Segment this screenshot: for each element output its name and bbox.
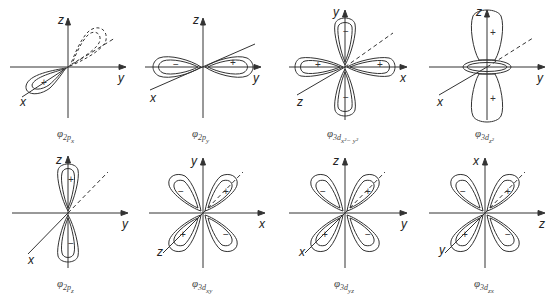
lobe-sign: +: [377, 60, 383, 70]
orbital-caption: φ3dzx: [474, 278, 494, 295]
lobe-sign: +: [41, 78, 47, 88]
axis-label-z: z: [297, 96, 303, 108]
lobe-sign: +: [490, 94, 496, 104]
orbital-3dzx-drawing: [415, 150, 554, 299]
axis-label-z: z: [539, 218, 545, 230]
axis-label-y: y: [122, 218, 128, 230]
orbital-3dzx: x z y − + + − φ3dzx: [415, 150, 554, 299]
axis-label-z: z: [333, 155, 339, 167]
lobe-sign: +: [315, 60, 321, 70]
axis-label-z: z: [58, 14, 64, 26]
orbital-3dz2: z y x + + φ3dz²: [415, 0, 554, 149]
lobe-sign: −: [365, 230, 371, 240]
axis-label-x: x: [20, 96, 26, 108]
lobe-sign: +: [322, 230, 328, 240]
lobe-sign: −: [173, 60, 179, 70]
axis-label-y: y: [191, 155, 197, 167]
axis-label-x: x: [259, 218, 265, 230]
axis-label-x: x: [400, 72, 406, 84]
orbital-3dxy-drawing: [135, 150, 274, 299]
orbital-caption: φ3dyz: [334, 278, 354, 295]
lobe-sign: +: [230, 58, 236, 68]
orbital-caption: φ3dx²− y²: [327, 128, 358, 145]
axis-label-y: y: [118, 72, 124, 84]
lobe-sign: +: [490, 28, 496, 38]
lobe-sign: −: [343, 93, 349, 103]
orbital-3dxy: y x z − + + − φ3dxy: [135, 150, 274, 299]
orbital-2pz-drawing: [0, 150, 139, 299]
axis-label-x: x: [150, 92, 156, 104]
lobe-sign: −: [460, 187, 466, 197]
axis-label-y: y: [253, 72, 259, 84]
lobe-sign: −: [505, 230, 511, 240]
axis-label-x: x: [437, 96, 443, 108]
orbital-caption: φ3dxy: [192, 278, 212, 295]
axis-label-z: z: [476, 6, 482, 18]
orbital-3dx2-y2: y x z − − + + φ3dx²− y²: [275, 0, 414, 149]
orbital-3dz2-drawing: [415, 0, 554, 149]
axis-label-y: y: [401, 218, 407, 230]
lobe-sign: +: [180, 230, 186, 240]
lobe-sign: −: [178, 187, 184, 197]
orbital-caption: φ2py: [192, 128, 209, 145]
lobe-sign: +: [68, 175, 74, 185]
axis-label-y: y: [333, 6, 339, 18]
lobe-sign: +: [365, 187, 371, 197]
axis-label-x: x: [299, 246, 305, 258]
lobe-sign: −: [68, 239, 74, 249]
lobe-sign: +: [223, 187, 229, 197]
axis-label-y: y: [439, 244, 445, 256]
orbital-caption: φ2px: [57, 128, 74, 145]
lobe-sign: −: [320, 187, 326, 197]
orbital-2pz: z y x + − φ2pz: [0, 150, 139, 299]
orbital-caption: φ3dz²: [475, 128, 494, 145]
orbital-3dyz-drawing: [275, 150, 414, 299]
lobe-sign: −: [223, 230, 229, 240]
axis-label-z: z: [56, 154, 62, 166]
orbital-2py: z y x − + φ2py: [135, 0, 274, 149]
lobe-sign: +: [505, 187, 511, 197]
lobe-sign: −: [343, 27, 349, 37]
axis-label-z: z: [157, 246, 163, 258]
axis-label-y: y: [537, 72, 543, 84]
lobe-sign: +: [462, 230, 468, 240]
orbital-caption: φ2pz: [57, 278, 74, 295]
axis-label-x: x: [28, 254, 34, 266]
orbital-3dx2-y2-drawing: [275, 0, 414, 149]
axis-label-z: z: [193, 14, 199, 26]
orbital-3dyz: z y x − + + − φ3dyz: [275, 150, 414, 299]
orbital-2px: z y x + φ2px: [0, 0, 139, 149]
axis-label-x: x: [473, 155, 479, 167]
